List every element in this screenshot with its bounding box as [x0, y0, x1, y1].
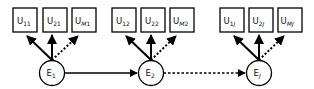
observed-node-u1j[interactable]: U1J: [220, 8, 244, 32]
group-1: U11 U21 UM1 E1: [13, 8, 96, 86]
latent-node-e2[interactable]: E2: [139, 61, 164, 86]
observed-node-um2[interactable]: UM2: [170, 8, 194, 32]
group-2: U12 U22 UM2 E2: [112, 8, 194, 86]
emission-arrow-e1-um1: [52, 36, 78, 60]
emission-arrow-ej-umj: [259, 36, 284, 60]
emission-arrow-e1-u11: [27, 36, 52, 60]
observed-node-u22[interactable]: U22: [141, 8, 165, 32]
observed-node-u12[interactable]: U12: [112, 8, 136, 32]
hmm-diagram: U11 U21 UM1 E1 U12 U22 UM2: [0, 0, 314, 89]
observed-node-u11[interactable]: U11: [13, 8, 37, 32]
group-j: U1J U2J UMJ EJ: [220, 8, 302, 86]
emission-arrow-e2-u12: [126, 36, 151, 60]
observed-node-u21[interactable]: U21: [43, 8, 67, 32]
observed-node-um1[interactable]: UM1: [72, 8, 96, 32]
latent-node-ej[interactable]: EJ: [247, 61, 272, 86]
latent-node-e1[interactable]: E1: [40, 61, 65, 86]
observed-node-umj[interactable]: UMJ: [278, 8, 302, 32]
emission-arrow-e2-um2: [151, 36, 176, 60]
observed-node-u2j[interactable]: U2J: [249, 8, 273, 32]
emission-arrow-ej-u1j: [234, 36, 259, 60]
